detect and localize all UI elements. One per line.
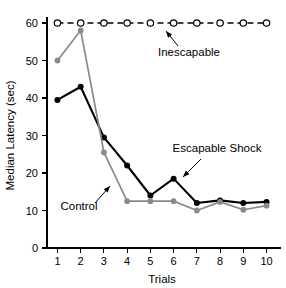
- data-point: [263, 20, 269, 26]
- data-point: [240, 200, 246, 206]
- data-point: [78, 28, 84, 34]
- data-point: [171, 176, 177, 182]
- data-point: [101, 20, 107, 26]
- data-point: [217, 199, 223, 205]
- y-tick-label: 10: [26, 205, 38, 217]
- x-tick-label: 2: [78, 255, 84, 267]
- data-point: [264, 203, 270, 209]
- data-point: [147, 198, 153, 204]
- annotation-escapable-shock: Escapable Shock: [173, 142, 262, 177]
- y-axis-title: Median Latency (sec): [4, 80, 16, 190]
- data-point: [147, 193, 153, 199]
- annotation-layer: InescapableEscapable ShockControl: [60, 31, 261, 212]
- data-point: [54, 97, 60, 103]
- data-point: [194, 20, 200, 26]
- data-point: [171, 198, 177, 204]
- data-point: [54, 20, 60, 26]
- data-point: [77, 20, 83, 26]
- data-point: [240, 20, 246, 26]
- median-latency-line-chart: 0102030405060 12345678910 Median Latency…: [0, 0, 286, 288]
- data-point: [147, 20, 153, 26]
- data-point: [124, 198, 130, 204]
- data-point: [78, 84, 84, 90]
- data-point: [194, 200, 200, 206]
- x-axis-ticks: 12345678910: [54, 248, 272, 267]
- x-tick-label: 8: [217, 255, 223, 267]
- chart-container: 0102030405060 12345678910 Median Latency…: [0, 0, 286, 288]
- y-tick-label: 60: [26, 17, 38, 29]
- x-tick-label: 5: [147, 255, 153, 267]
- x-axis-title: Trials: [148, 273, 176, 285]
- y-tick-label: 30: [26, 130, 38, 142]
- y-tick-label: 20: [26, 167, 38, 179]
- x-tick-label: 3: [101, 255, 107, 267]
- annotation-control: Control: [60, 186, 110, 212]
- data-point: [101, 149, 107, 155]
- data-point: [217, 20, 223, 26]
- y-axis-ticks: 0102030405060: [26, 17, 47, 254]
- annotation-label: Inescapable: [158, 46, 220, 58]
- data-point: [170, 20, 176, 26]
- x-tick-label: 6: [171, 255, 177, 267]
- data-point: [194, 208, 200, 214]
- annotation-label: Escapable Shock: [173, 142, 262, 154]
- annotation-label: Control: [60, 200, 97, 212]
- series-inescapable: [54, 20, 269, 26]
- data-point: [240, 207, 246, 213]
- y-axis: 0102030405060: [26, 17, 47, 254]
- x-tick-label: 10: [260, 255, 272, 267]
- y-tick-label: 0: [32, 242, 38, 254]
- data-point: [124, 20, 130, 26]
- x-tick-label: 7: [194, 255, 200, 267]
- data-point: [55, 58, 61, 64]
- x-axis: 12345678910: [47, 248, 281, 267]
- x-tick-label: 4: [124, 255, 130, 267]
- data-point: [124, 163, 130, 169]
- y-tick-label: 50: [26, 55, 38, 67]
- x-tick-label: 9: [240, 255, 246, 267]
- y-tick-label: 40: [26, 92, 38, 104]
- x-tick-label: 1: [54, 255, 60, 267]
- annotation-inescapable: Inescapable: [158, 31, 220, 58]
